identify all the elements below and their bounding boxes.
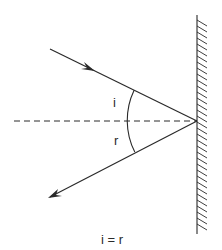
- reflection-angle-label: r: [114, 133, 119, 148]
- incident-ray: [50, 49, 197, 121]
- incidence-angle-label: i: [113, 95, 116, 110]
- equation-label: i = r: [101, 232, 124, 247]
- plane-mirror: [197, 15, 207, 234]
- reflection-diagram: i r i = r: [0, 0, 222, 250]
- reflected-ray: [48, 121, 197, 198]
- mirror-hatching: [197, 20, 207, 230]
- arrow-left-down-icon: [48, 189, 62, 198]
- arrow-right-down-icon: [81, 62, 95, 71]
